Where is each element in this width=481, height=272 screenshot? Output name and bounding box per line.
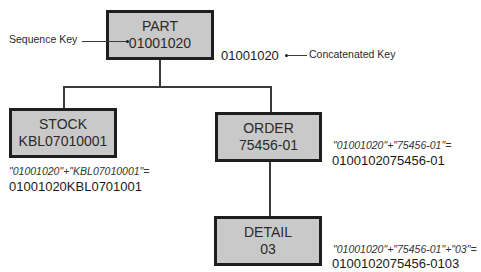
connector-part-down xyxy=(159,59,161,87)
stock-node: STOCK KBL07010001 xyxy=(9,108,117,158)
connector-order-detail xyxy=(269,162,271,217)
order-title: ORDER xyxy=(243,120,294,137)
order-formula: "01001020"+"75456-01"= xyxy=(333,139,451,151)
sequence-key-label: Sequence Key xyxy=(9,33,77,45)
order-node: ORDER 75456-01 xyxy=(215,112,322,162)
sequence-key-dot xyxy=(126,40,129,43)
sequence-key-pointer xyxy=(82,41,127,42)
stock-title: STOCK xyxy=(39,116,87,133)
concatenated-key-label: Concatenated Key xyxy=(309,48,395,60)
connector-horizontal xyxy=(63,86,271,88)
detail-node: DETAIL 03 xyxy=(214,216,322,266)
order-key: 75456-01 xyxy=(239,137,298,154)
detail-result: 0100102075456-0103 xyxy=(332,256,459,271)
detail-key: 03 xyxy=(260,241,276,258)
concatenated-key-pointer xyxy=(287,55,307,56)
detail-title: DETAIL xyxy=(244,224,292,241)
connector-stock-up xyxy=(63,86,65,109)
stock-formula: "01001020"+"KBL07010001"= xyxy=(9,165,149,177)
connector-order-up xyxy=(270,86,272,113)
stock-key: KBL07010001 xyxy=(19,133,108,150)
detail-formula: "01001020"+"75456-01"+"03"= xyxy=(333,243,477,255)
part-node: PART 01001020 xyxy=(106,10,214,60)
stock-result: 01001020KBL0701001 xyxy=(9,179,142,194)
concatenated-key-value: 01001020 xyxy=(221,48,279,63)
part-title: PART xyxy=(142,18,178,35)
part-key: 01001020 xyxy=(129,35,191,52)
order-result: 0100102075456-01 xyxy=(332,153,445,168)
